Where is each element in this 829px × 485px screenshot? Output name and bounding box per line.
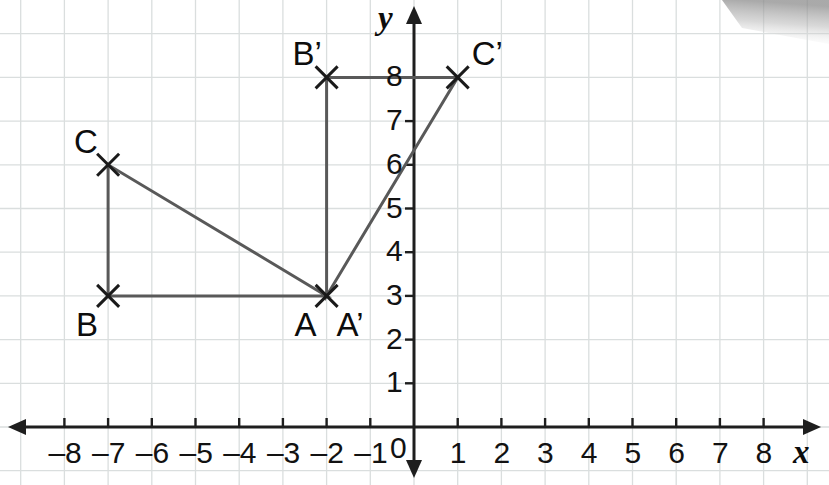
point-label-B: B [76,308,98,341]
x-tick-label-2: 2 [493,438,510,468]
y-tick-label-8: 8 [386,61,403,91]
x-tick-label-7: 7 [712,438,729,468]
x-tick-label--1: –1 [354,438,387,468]
scan-shadow-artifact [722,0,829,44]
triangle-ABC [108,165,327,296]
point-label-A': A’ [337,308,364,341]
x-tick-label-6: 6 [668,438,685,468]
x-tick-label--2: –2 [311,438,344,468]
y-tick-label-4: 4 [386,236,403,266]
y-axis-label: y [378,2,393,35]
point-label-A: A [295,308,317,341]
y-tick-label-3: 3 [386,280,403,310]
y-tick-label-2: 2 [386,324,403,354]
x-axis-label: x [793,436,810,469]
y-tick-label-6: 6 [386,149,403,179]
x-tick-label-8: 8 [756,438,773,468]
origin-label: 0 [390,433,407,463]
x-tick-label--4: –4 [223,438,256,468]
x-tick-label--3: –3 [267,438,300,468]
plot-svg [0,0,829,485]
x-tick-label--6: –6 [136,438,169,468]
x-tick-label--7: –7 [92,438,125,468]
x-tick-label-3: 3 [537,438,554,468]
x-axis-arrow-right [803,419,821,435]
y-axis-arrow-down [406,460,422,478]
y-tick-label-1: 1 [386,367,403,397]
x-tick-label--8: –8 [48,438,81,468]
y-tick-label-7: 7 [386,105,403,135]
x-axis-arrow-left [8,419,26,435]
y-axis-arrow-up [406,6,422,24]
point-label-C': C’ [472,37,503,70]
coordinate-plane-figure: –8–7–6–5–4–3–2–112345678123456780xyABCA’… [0,0,829,485]
point-label-C: C [74,125,98,158]
point-label-B': B’ [293,37,322,70]
y-tick-label-5: 5 [386,193,403,223]
x-tick-label-5: 5 [625,438,642,468]
x-tick-label-4: 4 [581,438,598,468]
x-tick-label-1: 1 [450,438,467,468]
x-tick-label--5: –5 [180,438,213,468]
